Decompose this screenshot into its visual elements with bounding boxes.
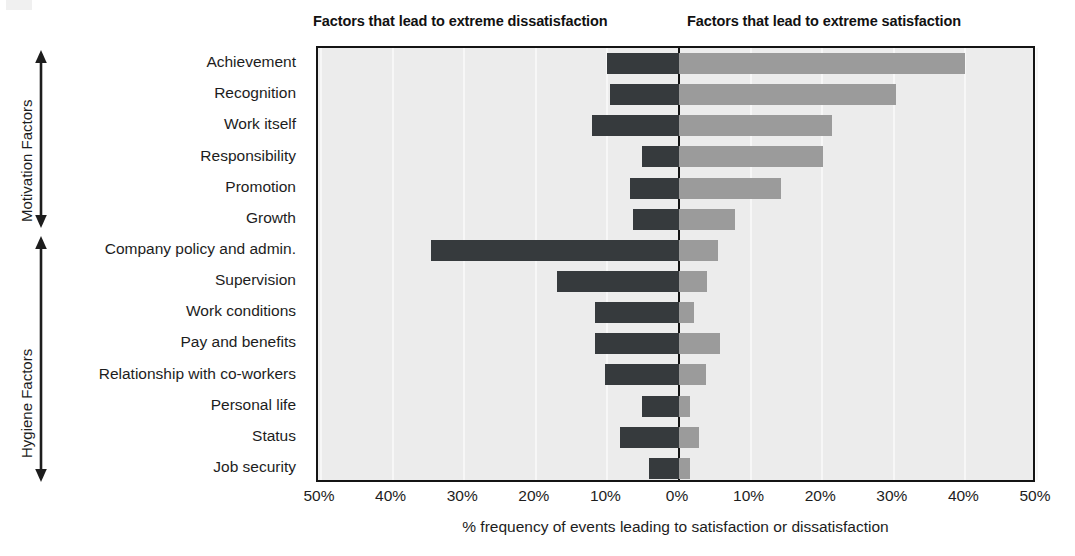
x-tick-8: 30% [862, 487, 922, 505]
category-label-work-conditions: Work conditions [0, 302, 306, 320]
bar-satisfaction [679, 458, 690, 479]
category-label-text: Growth [246, 209, 306, 226]
bar-row [318, 391, 1033, 422]
bar-satisfaction [679, 302, 694, 323]
scan-artifact [6, 0, 32, 10]
category-label-supervision: Supervision [0, 271, 306, 289]
bar-satisfaction [679, 396, 690, 417]
bar-row [318, 235, 1033, 266]
category-label-text: Pay and benefits [181, 333, 306, 350]
category-label-text: Job security [213, 458, 306, 475]
column-header-dissatisfaction: Factors that lead to extreme dissatisfac… [313, 13, 608, 29]
motivation-factors-label: Motivation Factors [0, 50, 16, 228]
bar-row [318, 48, 1033, 79]
bar-satisfaction [679, 84, 896, 105]
category-label-text: Status [252, 427, 306, 444]
category-label-achievement: Achievement [0, 53, 306, 71]
bar-dissatisfaction [431, 240, 679, 261]
bar-satisfaction [679, 427, 699, 448]
bar-satisfaction [679, 271, 707, 292]
bar-satisfaction [679, 115, 832, 136]
category-label-text: Achievement [206, 53, 306, 70]
category-label-job-security: Job security [0, 458, 306, 476]
x-tick-9: 40% [933, 487, 993, 505]
x-tick-7: 20% [790, 487, 850, 505]
category-label-text: Recognition [214, 84, 306, 101]
bar-satisfaction [679, 178, 781, 199]
x-tick-5: 0% [647, 487, 707, 505]
bar-dissatisfaction [595, 333, 679, 354]
category-label-text: Personal life [211, 396, 306, 413]
category-label-promotion: Promotion [0, 178, 306, 196]
motivation-factors-arrow [33, 50, 49, 228]
bar-satisfaction [679, 333, 720, 354]
bar-row [318, 173, 1033, 204]
bar-satisfaction [679, 364, 706, 385]
x-tick-3: 20% [504, 487, 564, 505]
bar-dissatisfaction [642, 396, 679, 417]
bar-satisfaction [679, 146, 823, 167]
category-label-text: Work conditions [186, 302, 306, 319]
bar-row [318, 453, 1033, 484]
bar-dissatisfaction [610, 84, 679, 105]
category-label-company-policy-and-admin: Company policy and admin. [0, 240, 306, 258]
bar-dissatisfaction [642, 146, 679, 167]
x-tick-2: 30% [432, 487, 492, 505]
bar-row [318, 328, 1033, 359]
category-label-pay-and-benefits: Pay and benefits [0, 333, 306, 351]
bar-satisfaction [679, 240, 718, 261]
category-label-text: Responsibility [200, 147, 306, 164]
x-axis-title: % frequency of events leading to satisfa… [316, 518, 1035, 536]
bar-dissatisfaction [633, 209, 679, 230]
plot-area [316, 46, 1035, 482]
x-tick-6: 10% [719, 487, 779, 505]
gridline-50 [1036, 48, 1038, 480]
bar-dissatisfaction [607, 53, 679, 74]
bar-dissatisfaction [595, 302, 679, 323]
bar-row [318, 266, 1033, 297]
category-label-text: Company policy and admin. [105, 240, 306, 257]
category-label-recognition: Recognition [0, 84, 306, 102]
category-label-work-itself: Work itself [0, 115, 306, 133]
bar-dissatisfaction [592, 115, 679, 136]
bar-dissatisfaction [620, 427, 679, 448]
bar-dissatisfaction [557, 271, 679, 292]
bar-satisfaction [679, 209, 735, 230]
category-label-status: Status [0, 427, 306, 445]
chart-canvas: Factors that lead to extreme dissatisfac… [0, 0, 1075, 556]
bar-row [318, 141, 1033, 172]
bar-dissatisfaction [649, 458, 679, 479]
bar-dissatisfaction [605, 364, 679, 385]
category-label-text: Relationship with co-workers [99, 365, 306, 382]
column-header-satisfaction: Factors that lead to extreme satisfactio… [687, 13, 961, 29]
category-label-text: Supervision [215, 271, 306, 288]
bar-row [318, 422, 1033, 453]
bar-row [318, 204, 1033, 235]
bar-satisfaction [679, 53, 965, 74]
x-tick-10: 50% [1005, 487, 1065, 505]
bar-row [318, 297, 1033, 328]
bar-row [318, 79, 1033, 110]
x-tick-0: 50% [289, 487, 349, 505]
category-label-text: Promotion [225, 178, 306, 195]
x-tick-4: 10% [575, 487, 635, 505]
bar-row [318, 110, 1033, 141]
category-label-growth: Growth [0, 209, 306, 227]
bar-dissatisfaction [630, 178, 679, 199]
bar-row [318, 359, 1033, 390]
category-label-personal-life: Personal life [0, 396, 306, 414]
category-label-text: Work itself [224, 115, 306, 132]
category-label-relationship-with-co-workers: Relationship with co-workers [0, 365, 306, 383]
x-tick-1: 40% [361, 487, 421, 505]
category-label-responsibility: Responsibility [0, 147, 306, 165]
